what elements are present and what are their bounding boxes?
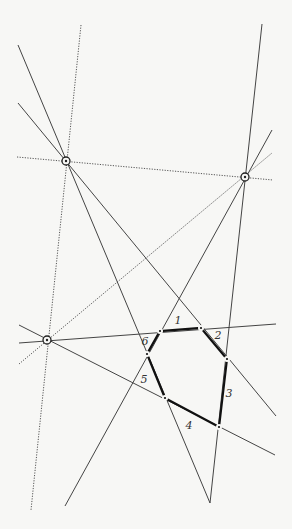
dotted-line — [17, 157, 273, 180]
vertex-dot — [159, 330, 161, 332]
dotted-construction-lines — [17, 25, 273, 510]
edge-label: 2 — [214, 329, 222, 342]
point-center — [65, 160, 67, 162]
edge-label: 6 — [142, 335, 149, 348]
dotted-line — [31, 25, 81, 510]
solid-lines — [18, 24, 276, 506]
solid-line — [65, 130, 272, 506]
hexagon-edge — [148, 334, 158, 352]
solid-line — [210, 24, 262, 503]
edge-label: 3 — [226, 387, 233, 400]
solid-line — [18, 103, 276, 416]
geometric-diagram: 123456 — [0, 0, 292, 529]
edge-label: 1 — [175, 314, 182, 327]
point-center — [46, 339, 48, 341]
vertex-dot — [146, 353, 148, 355]
vertex-dot — [226, 358, 228, 360]
circled-points — [43, 157, 249, 344]
vertex-dot — [218, 426, 220, 428]
hexagon-edges — [148, 328, 227, 425]
point-center — [244, 176, 246, 178]
edge-label: 5 — [141, 373, 148, 386]
vertex-dot — [200, 327, 202, 329]
hexagon-edge — [148, 357, 164, 395]
solid-line — [18, 45, 210, 503]
edge-label: 4 — [185, 419, 193, 432]
vertex-dot — [164, 397, 166, 399]
